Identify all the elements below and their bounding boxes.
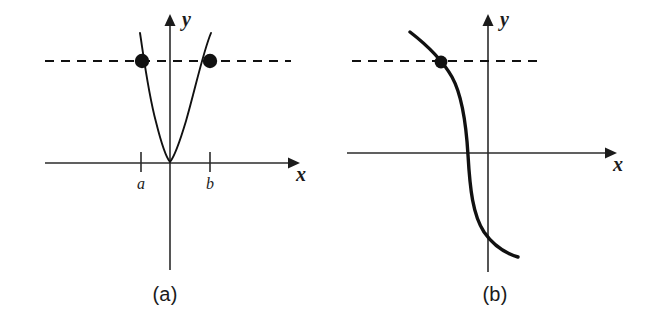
figure-root: y x a b (a) y [0,0,660,330]
panel-b-plot: y x [330,0,660,330]
tick-label-b: b [206,175,214,192]
panel-b: y x (b) [330,0,660,330]
panel-a: y x a b (a) [0,0,330,330]
panel-a-plot: y x a b [0,0,330,330]
intersection-point-b [203,54,217,68]
y-axis-arrowhead [483,14,494,26]
tick-label-a: a [137,175,145,192]
x-axis-label: x [295,163,306,185]
parabola-curve [140,33,211,162]
intersection-point-a [135,54,149,68]
y-axis-arrowhead [165,14,176,26]
intersection-point [435,56,448,69]
y-axis-label: y [180,8,191,31]
y-axis-label: y [498,8,509,31]
panel-b-caption: (b) [330,283,660,306]
panel-a-caption: (a) [0,283,330,306]
decreasing-curve [410,32,518,257]
x-axis-label: x [612,153,623,175]
